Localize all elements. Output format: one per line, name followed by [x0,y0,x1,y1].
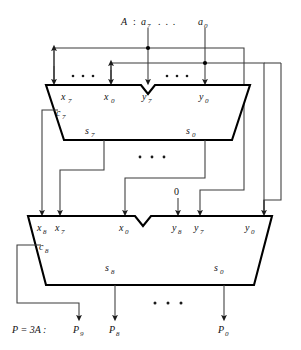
lower-output-ellipsis [154,302,183,305]
svg-text:y: y [171,222,177,233]
lower-adder-shape [28,216,272,285]
svg-text:c: c [56,107,61,118]
svg-text:0: 0 [174,186,179,197]
svg-text:x: x [54,222,60,233]
svg-text:y: y [141,91,147,102]
svg-text:0: 0 [204,22,208,30]
svg-text:0: 0 [225,330,229,338]
svg-text:y: y [193,222,199,233]
wire-a7-to-y7 [200,152,244,213]
svg-text:. . .: . . . [158,16,177,27]
svg-text:P: P [108,324,115,335]
svg-text:s: s [105,262,109,273]
figure-canvas: x 7 x 0 y 7 y 0 c 7 s 7 s 0 [0,0,301,350]
svg-text::: : [133,16,136,27]
svg-text:s: s [85,125,89,136]
upper-output-ellipsis [139,156,166,159]
svg-text:x: x [118,222,124,233]
svg-text:0: 0 [220,268,224,276]
svg-text:s: s [214,262,218,273]
svg-text:7: 7 [61,228,65,236]
svg-text:0: 0 [205,97,209,105]
logic-diagram: x 7 x 0 y 7 y 0 c 7 s 7 s 0 [0,0,301,350]
svg-text:9: 9 [80,330,84,338]
junction-dot-a7 [146,46,150,50]
constant-zero-label: 0 [174,186,179,197]
svg-text:7: 7 [68,97,72,105]
upper-input-ellipsis-right [166,75,189,78]
result-equation-label: P = 3A : [11,324,46,335]
wire-c7-to-x8 [42,110,58,213]
svg-text:c: c [39,241,44,252]
svg-text:x: x [60,91,66,102]
svg-text:8: 8 [111,268,115,276]
svg-text:A: A [120,16,128,27]
svg-text:8: 8 [178,228,182,236]
svg-text:x: x [36,222,42,233]
result-bit-p9-label: P 9 [72,324,84,338]
svg-text:x: x [103,91,109,102]
junction-dot-a0 [203,61,207,65]
upper-adder-shape [46,85,250,140]
upper-input-ellipsis-left [72,75,95,78]
svg-text:a: a [141,16,146,27]
svg-text:P: P [72,324,79,335]
svg-text:7: 7 [200,228,204,236]
svg-text:P: P [217,324,224,335]
svg-text:7: 7 [148,97,152,105]
svg-text:a: a [198,16,203,27]
svg-text:0: 0 [192,131,196,139]
svg-text:7: 7 [62,113,66,121]
svg-text:P = 3A :: P = 3A : [11,324,46,335]
svg-text:0: 0 [251,228,255,236]
wire-s0-to-x0 [125,140,205,213]
result-bit-p8-label: P 8 [108,324,120,338]
svg-text:8: 8 [116,330,120,338]
svg-text:7: 7 [147,22,151,30]
wire-s7-to-x7 [60,140,104,213]
svg-text:s: s [186,125,190,136]
result-bit-p0-label: P 0 [217,324,229,338]
svg-text:8: 8 [43,228,47,236]
svg-text:8: 8 [45,247,49,255]
svg-text:y: y [244,222,250,233]
svg-text:7: 7 [91,131,95,139]
wire-a0-to-y0 [264,63,281,213]
svg-text:y: y [198,91,204,102]
svg-text:0: 0 [125,228,129,236]
svg-text:0: 0 [111,97,115,105]
input-bus-label: A : a 7 . . . a 0 [120,16,208,30]
